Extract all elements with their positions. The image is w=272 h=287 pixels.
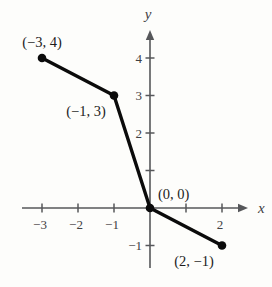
y-tick-label: 4: [136, 51, 143, 66]
data-point: [146, 204, 155, 213]
data-point: [218, 241, 227, 250]
point-coordinate-label: (−3, 4): [22, 34, 62, 51]
point-coordinate-label: (2, −1): [174, 253, 214, 270]
coordinate-plane-figure: xy−3−2−12−1234(−3, 4)(−1, 3)(0, 0)(2, −1…: [0, 0, 272, 287]
x-tick-label: −2: [69, 217, 83, 232]
graph-canvas: xy−3−2−12−1234(−3, 4)(−1, 3)(0, 0)(2, −1…: [0, 0, 272, 287]
x-axis-label: x: [257, 200, 265, 216]
y-tick-label: −1: [128, 238, 142, 253]
point-coordinate-label: (0, 0): [158, 186, 190, 203]
data-point: [38, 54, 47, 63]
y-axis-label: y: [143, 6, 152, 22]
data-point: [110, 91, 119, 100]
x-axis-arrowhead: [238, 204, 248, 212]
x-tick-label: −1: [105, 217, 119, 232]
y-tick-label: 3: [136, 88, 143, 103]
x-tick-label: 2: [217, 217, 224, 232]
y-axis-arrowhead: [146, 30, 154, 40]
x-tick-label: −3: [33, 217, 47, 232]
y-tick-label: 2: [136, 126, 143, 141]
point-coordinate-label: (−1, 3): [66, 103, 106, 120]
